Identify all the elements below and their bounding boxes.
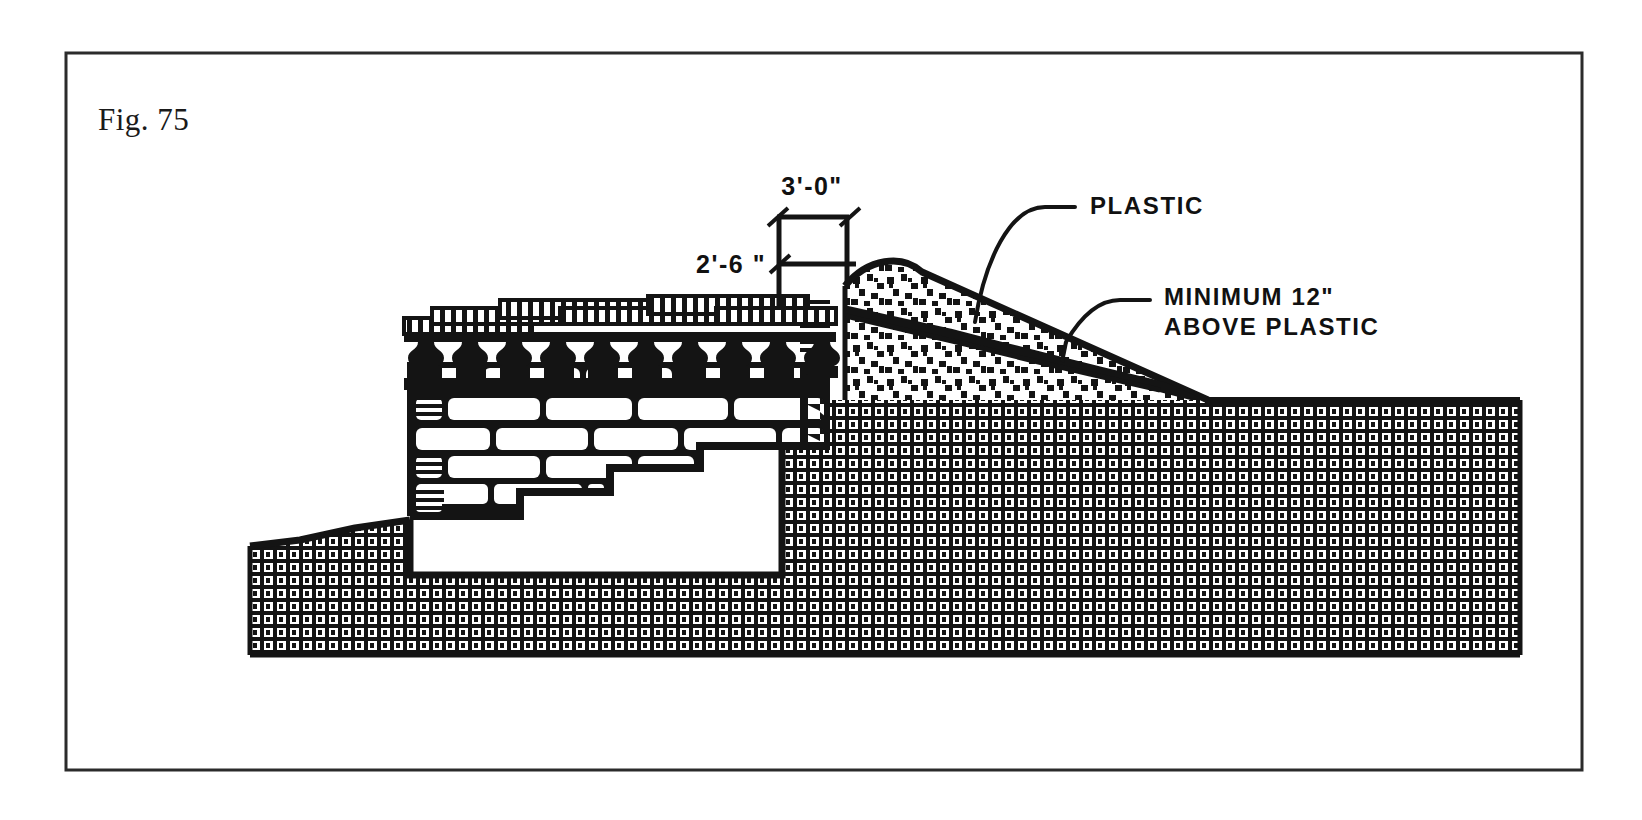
callout-minimum-cover-line2: ABOVE PLASTIC	[1164, 313, 1379, 340]
retaining-wall-section-drawing: Fig. 75	[0, 0, 1642, 820]
gravel-berm	[845, 261, 1208, 400]
dimension-wall-height	[770, 255, 856, 273]
callout-minimum-cover-line1: MINIMUM 12"	[1164, 283, 1334, 310]
figure-sheet: Fig. 75	[0, 0, 1642, 820]
wall-cap-hatch	[404, 296, 836, 342]
callout-plastic-label: PLASTIC	[1090, 192, 1204, 219]
footing-void	[410, 520, 782, 575]
figure-label: Fig. 75	[98, 102, 189, 137]
dimension-berm-width-label: 3'-0"	[781, 172, 842, 200]
dimension-wall-height-label: 2'-6 "	[696, 250, 766, 278]
